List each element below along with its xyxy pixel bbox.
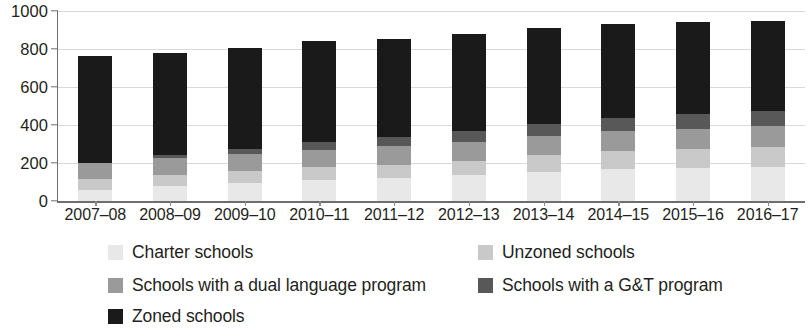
y-axis-tick-mark <box>51 200 58 201</box>
bar-segment[interactable] <box>153 53 187 155</box>
bar-group[interactable] <box>676 22 710 201</box>
x-axis-tick-label: 2008–09 <box>139 206 201 224</box>
bar-segment[interactable] <box>751 21 785 112</box>
legend-swatch-icon <box>108 245 123 260</box>
bar-segment[interactable] <box>601 169 635 201</box>
bar-segment[interactable] <box>78 179 112 189</box>
y-axis-tick-mark <box>51 86 58 87</box>
bar-segment[interactable] <box>377 137 411 146</box>
x-axis-tick-label: 2007–08 <box>65 206 127 224</box>
legend-label: Zoned schools <box>132 308 245 326</box>
bar-segment[interactable] <box>302 142 336 150</box>
bar-segment[interactable] <box>302 167 336 180</box>
bar-group[interactable] <box>78 56 112 201</box>
bar-group[interactable] <box>527 28 561 201</box>
bar-segment[interactable] <box>153 175 187 186</box>
legend-label: Unzoned schools <box>502 244 635 262</box>
bar-group[interactable] <box>153 53 187 201</box>
stacked-bar-chart: 02004006008001000 2007–082008–092009–102… <box>0 0 808 333</box>
bar-segment[interactable] <box>527 124 561 136</box>
bar-segment[interactable] <box>676 168 710 201</box>
y-axis-tick-label: 200 <box>20 154 48 173</box>
y-axis-tick-mark <box>51 124 58 125</box>
bar-segment[interactable] <box>601 118 635 132</box>
y-axis-tick-label: 800 <box>20 40 48 59</box>
bar-segment[interactable] <box>452 34 486 131</box>
legend-item[interactable]: Schools with a G&T program <box>478 277 723 295</box>
bar-segment[interactable] <box>527 155 561 171</box>
y-axis-tick-label: 400 <box>20 116 48 135</box>
legend-swatch-icon <box>108 309 123 324</box>
bar-segment[interactable] <box>153 158 187 175</box>
bar-group[interactable] <box>228 48 262 201</box>
x-axis-tick-label: 2016–17 <box>737 206 799 224</box>
bar-segment[interactable] <box>78 56 112 163</box>
bar-segment[interactable] <box>452 131 486 142</box>
bar-segment[interactable] <box>527 28 561 124</box>
y-axis-tick-mark <box>51 162 58 163</box>
bar-group[interactable] <box>302 41 336 201</box>
bar-segment[interactable] <box>377 165 411 179</box>
y-axis: 02004006008001000 <box>0 0 48 202</box>
bar-group[interactable] <box>452 34 486 201</box>
bar-segment[interactable] <box>78 190 112 201</box>
legend-label: Schools with a G&T program <box>502 277 723 295</box>
bar-segment[interactable] <box>78 163 112 179</box>
legend-swatch-icon <box>478 278 493 293</box>
bar-segment[interactable] <box>751 111 785 126</box>
y-axis-tick-label: 1000 <box>11 2 48 21</box>
bar-group[interactable] <box>751 21 785 201</box>
bar-segment[interactable] <box>751 147 785 167</box>
bar-segment[interactable] <box>302 180 336 201</box>
bar-segment[interactable] <box>228 48 262 149</box>
bar-group[interactable] <box>601 24 635 201</box>
bar-segment[interactable] <box>751 126 785 147</box>
plot-area: 02004006008001000 2007–082008–092009–102… <box>0 0 808 230</box>
legend-item[interactable]: Unzoned schools <box>478 244 635 262</box>
bar-segment[interactable] <box>452 175 486 201</box>
bar-segment[interactable] <box>676 114 710 128</box>
y-axis-tick-mark <box>51 10 58 11</box>
bar-segment[interactable] <box>452 142 486 161</box>
bar-segment[interactable] <box>601 131 635 151</box>
x-axis-tick-label: 2011–12 <box>364 206 424 224</box>
legend-label: Schools with a dual language program <box>132 277 426 295</box>
bar-segment[interactable] <box>676 129 710 150</box>
bar-segment[interactable] <box>302 150 336 167</box>
x-axis-tick-label: 2010–11 <box>289 206 349 224</box>
x-axis-tick-label: 2013–14 <box>513 206 575 224</box>
bar-segment[interactable] <box>153 186 187 201</box>
bar-segment[interactable] <box>751 167 785 201</box>
bar-segment[interactable] <box>527 172 561 201</box>
bar-segment[interactable] <box>377 178 411 201</box>
x-axis-tick-label: 2009–10 <box>214 206 276 224</box>
x-axis-tick-label: 2015–16 <box>662 206 724 224</box>
bar-segment[interactable] <box>676 22 710 114</box>
legend-item[interactable]: Charter schools <box>108 244 253 262</box>
bar-segment[interactable] <box>228 154 262 171</box>
y-axis-tick-label: 0 <box>39 192 48 211</box>
legend-swatch-icon <box>108 278 123 293</box>
bar-segment[interactable] <box>601 24 635 117</box>
legend-swatch-icon <box>478 245 493 260</box>
y-axis-tick-label: 600 <box>20 78 48 97</box>
bar-segment[interactable] <box>452 161 486 176</box>
bars-layer <box>58 0 805 202</box>
chart-legend: Charter schoolsUnzoned schoolsSchools wi… <box>0 238 808 333</box>
bar-group[interactable] <box>377 39 411 201</box>
bar-segment[interactable] <box>676 149 710 168</box>
y-axis-tick-mark <box>51 48 58 49</box>
bar-segment[interactable] <box>377 146 411 164</box>
legend-item[interactable]: Zoned schools <box>108 308 245 326</box>
legend-label: Charter schools <box>132 244 253 262</box>
x-axis-tick-label: 2014–15 <box>587 206 649 224</box>
bar-segment[interactable] <box>601 151 635 168</box>
legend-item[interactable]: Schools with a dual language program <box>108 277 426 295</box>
bar-segment[interactable] <box>377 39 411 138</box>
x-axis: 2007–082008–092009–102010–112011–122012–… <box>58 206 805 230</box>
bar-segment[interactable] <box>228 183 262 201</box>
bar-segment[interactable] <box>228 171 262 183</box>
bar-segment[interactable] <box>302 41 336 142</box>
bar-segment[interactable] <box>527 136 561 155</box>
x-axis-tick-label: 2012–13 <box>438 206 500 224</box>
